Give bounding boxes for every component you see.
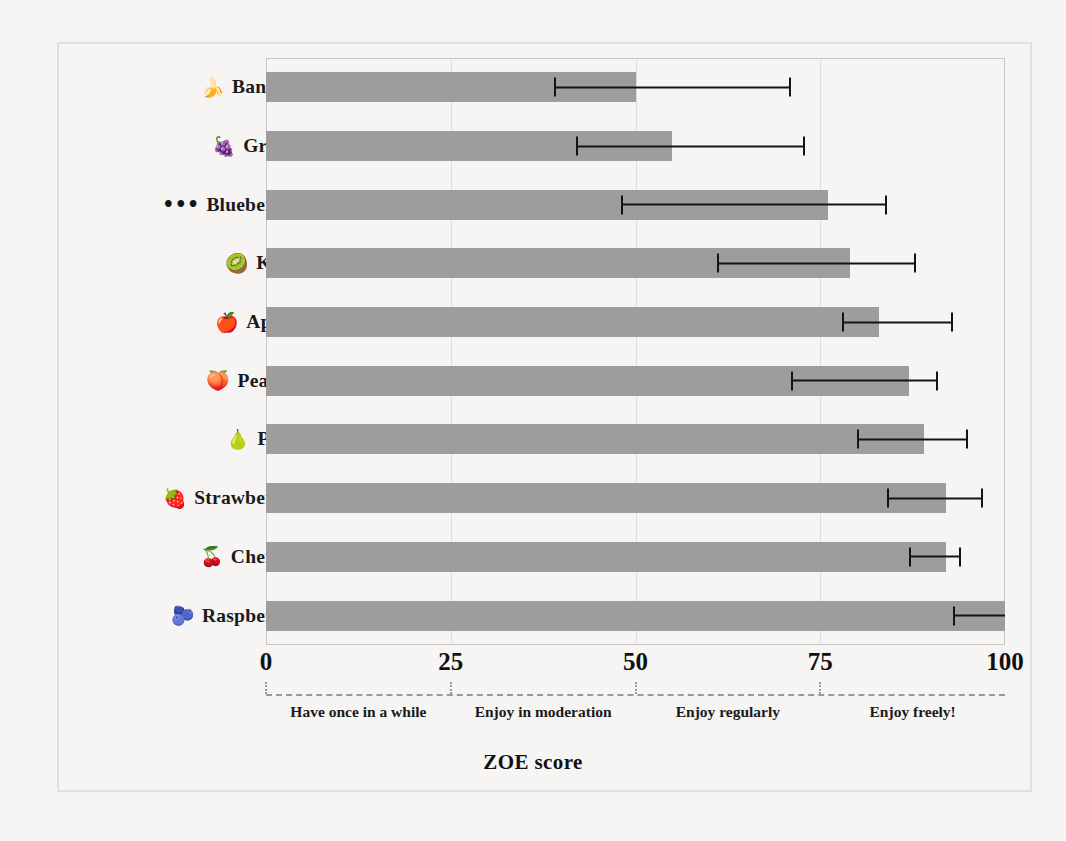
kiwi-icon: 🥝 xyxy=(225,254,249,273)
error-bar-cap-left xyxy=(953,606,955,625)
zone-label-0: Have once in a while xyxy=(290,703,426,721)
error-bar-cap-right xyxy=(936,371,938,390)
error-bar-cap-left xyxy=(909,547,911,566)
bar-row: 🍑Peaches xyxy=(0,351,1066,410)
x-tick-label-25: 25 xyxy=(438,648,463,676)
bar-row: 🍒Cherries xyxy=(0,528,1066,587)
error-bar-bananas xyxy=(554,78,790,97)
bar-cherries xyxy=(266,542,946,572)
error-bar-raspberries xyxy=(953,606,1005,625)
error-bar-cap-left xyxy=(791,371,793,390)
error-bar-line xyxy=(791,380,939,382)
error-bar-cap-left xyxy=(554,78,556,97)
zone-axis-line xyxy=(266,694,1005,696)
bar-pears xyxy=(266,424,924,454)
error-bar-blueberries xyxy=(621,195,887,214)
banana-icon: 🍌 xyxy=(201,78,225,97)
error-bar-cap-right xyxy=(959,547,961,566)
bar-row: 🍌Bananas xyxy=(0,58,1066,117)
blueberries-icon: ••• xyxy=(162,195,199,214)
zone-tick-25 xyxy=(450,682,452,694)
error-bar-line xyxy=(717,262,917,264)
bar-strawberries xyxy=(266,483,946,513)
error-bar-line xyxy=(909,556,961,558)
strawberry-icon: 🍓 xyxy=(163,489,187,508)
error-bar-strawberries xyxy=(887,489,983,508)
zone-label-3: Enjoy freely! xyxy=(870,703,956,721)
bar-rows: 🍌Bananas🍇Grapes•••Blueberries🥝Kiwis🍎Appl… xyxy=(0,58,1066,645)
zone-tick-75 xyxy=(819,682,821,694)
x-tick-label-50: 50 xyxy=(623,648,648,676)
error-bar-kiwis xyxy=(717,254,917,273)
cherries-icon: 🍒 xyxy=(200,547,224,566)
x-axis-title: ZOE score xyxy=(0,750,1066,775)
grapes-icon: 🍇 xyxy=(212,137,236,156)
x-axis-ticks: 0255075100 xyxy=(0,648,1066,684)
zone-labels: Have once in a whileEnjoy in moderationE… xyxy=(0,703,1066,733)
error-bar-cap-left xyxy=(576,137,578,156)
error-bar-cap-right xyxy=(981,489,983,508)
error-bar-peaches xyxy=(791,371,939,390)
error-bar-line xyxy=(857,438,968,440)
error-bar-line xyxy=(842,321,953,323)
zoe-score-bar-chart: 🍌Bananas🍇Grapes•••Blueberries🥝Kiwis🍎Appl… xyxy=(0,0,1066,841)
bar-apples xyxy=(266,307,879,337)
error-bar-cherries xyxy=(909,547,961,566)
bar-row: 🥝Kiwis xyxy=(0,234,1066,293)
raspberry-icon: 🫐 xyxy=(171,606,195,625)
bar-row: •••Blueberries xyxy=(0,175,1066,234)
error-bar-line xyxy=(953,615,1005,617)
zone-label-2: Enjoy regularly xyxy=(676,703,780,721)
bar-row: 🍓Strawberries xyxy=(0,469,1066,528)
x-tick-label-75: 75 xyxy=(808,648,833,676)
peach-icon: 🍑 xyxy=(206,371,230,390)
bar-row: 🍐Pears xyxy=(0,410,1066,469)
error-bar-cap-right xyxy=(803,137,805,156)
error-bar-line xyxy=(621,204,887,206)
zone-tick-50 xyxy=(635,682,637,694)
apple-icon: 🍎 xyxy=(215,313,239,332)
error-bar-pears xyxy=(857,430,968,449)
bar-row: 🍇Grapes xyxy=(0,117,1066,176)
bar-row: 🍎Apples xyxy=(0,293,1066,352)
error-bar-cap-right xyxy=(914,254,916,273)
x-tick-label-0: 0 xyxy=(260,648,273,676)
error-bar-apples xyxy=(842,313,953,332)
error-bar-cap-left xyxy=(621,195,623,214)
error-bar-cap-right xyxy=(951,313,953,332)
error-bar-cap-left xyxy=(717,254,719,273)
error-bar-grapes xyxy=(576,137,805,156)
bar-raspberries xyxy=(266,601,1005,631)
error-bar-cap-right xyxy=(885,195,887,214)
zone-label-1: Enjoy in moderation xyxy=(475,703,612,721)
x-tick-label-100: 100 xyxy=(986,648,1024,676)
error-bar-line xyxy=(554,86,790,88)
error-bar-cap-left xyxy=(857,430,859,449)
bar-row: 🫐Raspberries xyxy=(0,586,1066,645)
error-bar-line xyxy=(887,497,983,499)
pear-icon: 🍐 xyxy=(226,430,250,449)
error-bar-line xyxy=(576,145,805,147)
error-bar-cap-right xyxy=(966,430,968,449)
error-bar-cap-left xyxy=(842,313,844,332)
error-bar-cap-right xyxy=(789,78,791,97)
zone-tick-0 xyxy=(265,682,267,694)
error-bar-cap-left xyxy=(887,489,889,508)
